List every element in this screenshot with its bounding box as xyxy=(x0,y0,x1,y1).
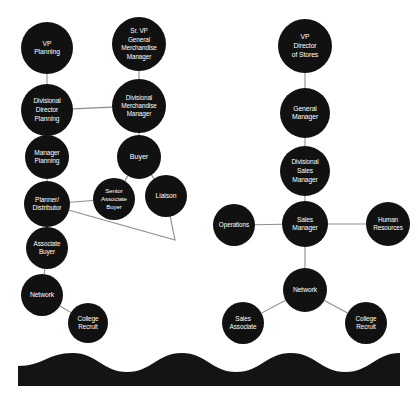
wave-band-decoration xyxy=(18,353,400,386)
node-label-line: Distributor xyxy=(33,204,63,211)
node-label-line: Buyer xyxy=(39,248,56,256)
node-label-planner-distributor: Planner/Distributor xyxy=(33,195,63,211)
node-label-line: Manager xyxy=(127,52,152,60)
node-label-line: College xyxy=(356,314,378,322)
node-label-liaison: Liaison xyxy=(156,192,177,199)
node-label-line: Sales xyxy=(235,314,251,321)
org-chart-diagram: VPPlanningSr. VPGeneralMerchandiseManage… xyxy=(0,0,418,404)
node-divisional-director-planning[interactable]: DivisionalDirectorPlanning xyxy=(21,84,73,136)
node-label-network-right: Network xyxy=(293,286,318,293)
node-label-line: VP xyxy=(43,39,52,46)
node-label-line: Merchandise xyxy=(121,102,157,109)
node-vp-planning[interactable]: VPPlanning xyxy=(21,22,73,74)
node-network-right[interactable]: Network xyxy=(283,268,327,312)
node-label-line: Liaison xyxy=(156,192,177,199)
node-label-line: Planning xyxy=(35,157,60,165)
node-label-line: Divisional xyxy=(126,93,152,100)
node-label-line: Recruit xyxy=(356,323,376,330)
node-label-line: Resources xyxy=(373,224,403,231)
node-label-operations: Operations xyxy=(219,221,249,229)
edge-planner-distributor-to-senior-associate-buyer xyxy=(70,201,93,203)
node-label-line: Human xyxy=(378,215,399,222)
node-label-college-recruit-right: CollegeRecruit xyxy=(356,314,378,329)
node-label-buyer: Buyer xyxy=(130,152,149,161)
node-label-manager-planning: ManagerPlanning xyxy=(34,148,60,165)
node-operations[interactable]: Operations xyxy=(213,204,255,246)
node-label-line: Sales xyxy=(297,167,314,174)
node-sales-associate[interactable]: SalesAssociate xyxy=(222,302,264,344)
node-senior-associate-buyer[interactable]: SeniorAssociateBuyer xyxy=(93,178,135,220)
node-label-line: Senior xyxy=(105,186,122,193)
org-chart-canvas: VPPlanningSr. VPGeneralMerchandiseManage… xyxy=(0,0,418,404)
node-label-line: Manager xyxy=(127,110,152,118)
node-label-line: Associate xyxy=(230,323,257,330)
node-human-resources[interactable]: HumanResources xyxy=(366,202,410,246)
node-label-general-manager: GeneralManager xyxy=(292,104,319,121)
nodes-layer: VPPlanningSr. VPGeneralMerchandiseManage… xyxy=(21,17,410,344)
node-vp-director-stores[interactable]: VPDirectorof Stores xyxy=(278,19,332,73)
node-buyer[interactable]: Buyer xyxy=(117,135,161,179)
node-associate-buyer[interactable]: AssociateBuyer xyxy=(26,227,68,269)
node-label-line: Operations xyxy=(219,221,249,229)
node-label-line: Divisional xyxy=(291,158,319,165)
node-label-line: Sr. VP xyxy=(130,27,148,34)
node-label-line: of Stores xyxy=(292,51,319,58)
node-general-manager[interactable]: GeneralManager xyxy=(280,88,330,138)
node-label-line: Network xyxy=(293,286,318,293)
edge-buyer-to-liaison xyxy=(152,175,155,179)
node-label-divisional-director-planning: DivisionalDirectorPlanning xyxy=(33,97,61,122)
node-label-line: Sales xyxy=(297,215,314,222)
node-label-line: Planning xyxy=(35,114,60,122)
node-manager-planning[interactable]: ManagerPlanning xyxy=(25,135,69,179)
node-label-line: Merchandise xyxy=(121,44,157,51)
node-college-recruit-right[interactable]: CollegeRecruit xyxy=(345,302,387,344)
node-label-line: Associate xyxy=(34,239,61,246)
node-sales-manager[interactable]: SalesManager xyxy=(282,201,328,247)
edge-buyer-to-senior-associate-buyer xyxy=(125,176,128,181)
node-label-line: Manager xyxy=(292,175,318,183)
edge-associate-buyer-to-network-left xyxy=(44,269,45,274)
node-label-line: Divisional xyxy=(33,97,61,104)
node-divisional-sales-manager[interactable]: DivisionalSalesManager xyxy=(280,146,330,196)
node-planner-distributor[interactable]: Planner/Distributor xyxy=(24,181,70,227)
node-label-line: Director xyxy=(36,106,59,113)
node-label-line: Manager xyxy=(34,148,60,156)
edge-network-left-to-college-recruit-left xyxy=(60,306,71,313)
node-divisional-merchandise-manager[interactable]: DivisionalMerchandiseManager xyxy=(112,79,166,133)
node-liaison[interactable]: Liaison xyxy=(145,175,187,217)
node-label-line: Director xyxy=(294,42,318,49)
edge-divisional-director-planning-to-divisional-merchandise-manager xyxy=(73,107,112,109)
node-college-recruit-left[interactable]: CollegeRecruit xyxy=(68,303,108,343)
node-label-line: General xyxy=(128,35,150,42)
node-label-line: Manager xyxy=(292,224,318,232)
node-label-line: College xyxy=(78,314,100,322)
node-network-left[interactable]: Network xyxy=(21,274,63,316)
node-label-line: Network xyxy=(30,291,55,298)
node-label-line: Planner/ xyxy=(35,195,59,202)
node-label-line: Recruit xyxy=(78,323,98,330)
node-sr-vp-gmm[interactable]: Sr. VPGeneralMerchandiseManager xyxy=(112,17,166,71)
node-label-line: Planning xyxy=(34,48,60,56)
wave-band-shape xyxy=(18,353,400,386)
node-label-line: Associate xyxy=(101,195,128,202)
node-label-line: General xyxy=(293,104,317,111)
node-label-network-left: Network xyxy=(30,291,55,298)
node-label-line: Manager xyxy=(292,113,319,121)
node-label-line: Buyer xyxy=(106,203,122,210)
edge-network-right-to-college-recruit-right xyxy=(324,300,347,313)
node-label-line: Buyer xyxy=(130,152,149,161)
node-label-college-recruit-left: CollegeRecruit xyxy=(78,314,100,329)
node-label-line: VP xyxy=(301,33,310,40)
edge-network-right-to-sales-associate xyxy=(262,300,286,313)
